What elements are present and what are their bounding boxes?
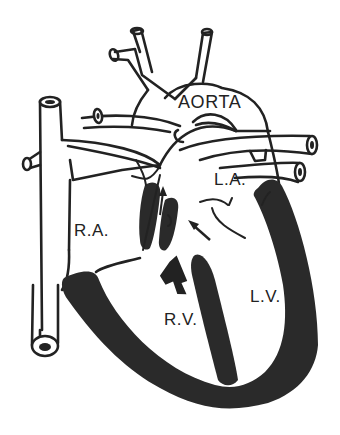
label-right-atrium: R.A. [74, 222, 109, 239]
aortic-branches [108, 28, 212, 99]
heart-illustration [0, 0, 340, 435]
label-right-ventricle: R.V. [164, 311, 198, 328]
heart-diagram: AORTA L.A. R.A. R.V. L.V. [0, 0, 340, 435]
label-left-ventricle: L.V. [250, 288, 281, 305]
bold-arrow-up-from-right-ventricle [157, 254, 190, 298]
pulmonary-veins [180, 136, 317, 182]
label-left-atrium: L.A. [214, 171, 246, 188]
label-aorta: AORTA [178, 93, 241, 111]
